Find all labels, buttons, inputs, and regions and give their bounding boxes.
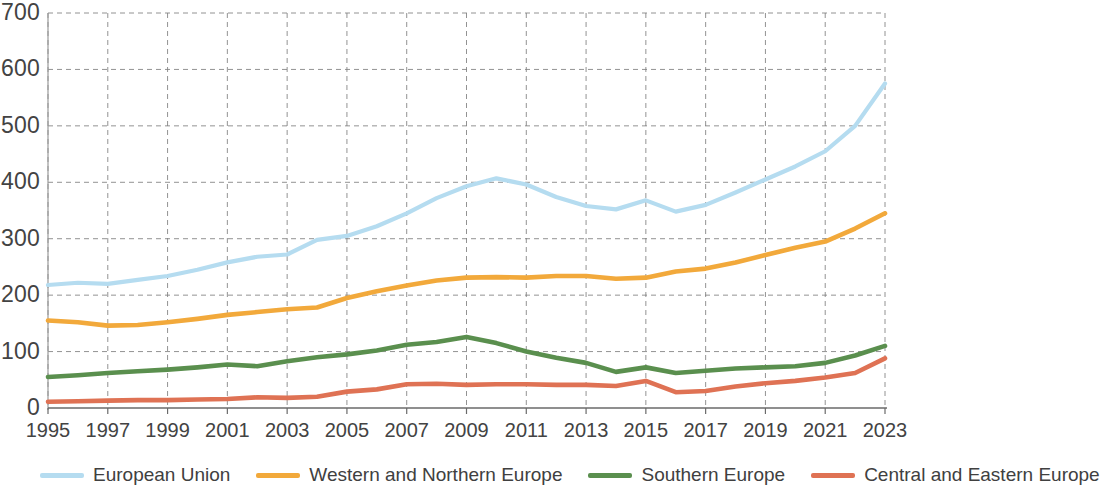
legend-swatch-icon bbox=[588, 473, 632, 478]
x-axis-tick-2001: 2001 bbox=[205, 418, 250, 442]
legend-label: Southern Europe bbox=[641, 464, 785, 486]
x-axis-tick-2019: 2019 bbox=[743, 418, 788, 442]
x-axis-tick-labels: 1995199719992001200320052007200920112013… bbox=[0, 418, 922, 452]
legend-item-western-and-northern-europe[interactable]: Western and Northern Europe bbox=[256, 464, 562, 486]
x-axis-tick-2023: 2023 bbox=[863, 418, 908, 442]
legend-label: Western and Northern Europe bbox=[309, 464, 562, 486]
x-axis-tick-2009: 2009 bbox=[444, 418, 489, 442]
x-axis-tick-2005: 2005 bbox=[325, 418, 370, 442]
legend-swatch-icon bbox=[811, 473, 855, 478]
x-axis-tick-2011: 2011 bbox=[505, 418, 548, 442]
x-axis-tick-1999: 1999 bbox=[145, 418, 190, 442]
x-axis-tick-2013: 2013 bbox=[564, 418, 609, 442]
legend-swatch-icon bbox=[256, 473, 300, 478]
legend-swatch-icon bbox=[40, 473, 84, 478]
legend-item-european-union[interactable]: European Union bbox=[40, 464, 230, 486]
x-axis-tick-1995: 1995 bbox=[26, 418, 71, 442]
legend-item-central-and-eastern-europe[interactable]: Central and Eastern Europe bbox=[811, 464, 1100, 486]
x-axis-tick-2003: 2003 bbox=[265, 418, 310, 442]
x-axis-tick-1997: 1997 bbox=[86, 418, 131, 442]
legend-item-southern-europe[interactable]: Southern Europe bbox=[588, 464, 785, 486]
legend-label: European Union bbox=[93, 464, 230, 486]
x-axis-tick-2007: 2007 bbox=[384, 418, 429, 442]
chart-legend: European UnionWestern and Northern Europ… bbox=[40, 460, 910, 490]
x-axis-tick-2017: 2017 bbox=[683, 418, 728, 442]
x-axis-tick-2021: 2021 bbox=[803, 418, 848, 442]
x-axis-tick-2015: 2015 bbox=[624, 418, 669, 442]
plot-frame bbox=[48, 13, 887, 414]
legend-label: Central and Eastern Europe bbox=[864, 464, 1100, 486]
gridlines bbox=[48, 13, 885, 408]
